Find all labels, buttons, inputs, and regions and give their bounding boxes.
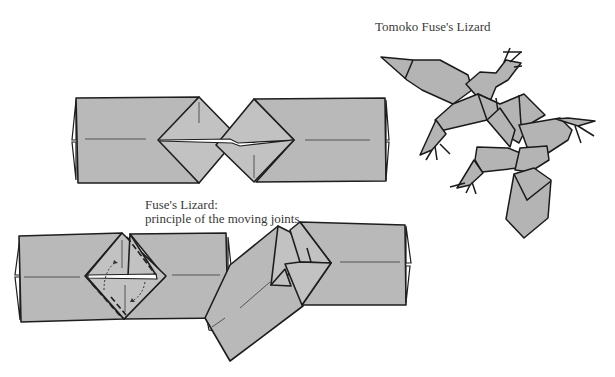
figure-joint-flat [72, 97, 389, 183]
figure-joint-rotated [205, 222, 411, 361]
figure-lizard-model [381, 48, 595, 238]
diagram-canvas [0, 0, 615, 377]
figure-joint-open [15, 233, 232, 322]
